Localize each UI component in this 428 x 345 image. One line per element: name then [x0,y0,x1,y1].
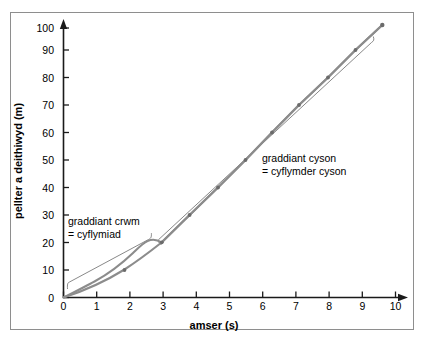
x-tick-label-8: 8 [319,301,339,312]
x-axis-ticks [64,292,396,298]
y-tick-label-90: 90 [18,45,54,56]
y-axis-ticks [64,28,70,298]
data-point [326,76,330,80]
y-tick-label-100: 100 [18,23,54,34]
annotation-constant-line1: graddiant cyson [262,152,336,164]
bracket-curved-gradient [67,233,151,289]
y-axis-title: pellter a deithiwyd (m) [12,86,24,236]
data-point [188,213,192,217]
chart-plot-area [0,0,428,345]
y-tick-label-20: 20 [18,238,54,249]
annotation-curved-line2: = cyflymiad [68,228,140,241]
x-tick-label-4: 4 [186,301,206,312]
data-point [380,23,384,27]
x-tick-label-3: 3 [153,301,173,312]
data-point [244,158,248,162]
x-tick-label-2: 2 [120,301,140,312]
x-tick-label-7: 7 [286,301,306,312]
x-tick-label-6: 6 [253,301,273,312]
x-tick-label-9: 9 [352,301,372,312]
data-point [216,186,220,190]
y-tick-label-10: 10 [18,265,54,276]
x-tick-label-1: 1 [87,301,107,312]
annotation-curved-line1: graddiant crwm [68,215,140,227]
data-point [123,268,127,272]
y-tick-label-0: 0 [18,293,54,304]
x-axis-title: amser (s) [0,319,428,331]
x-tick-label-5: 5 [220,301,240,312]
annotation-constant-gradient: graddiant cyson = cyflymder cyson [262,152,346,178]
x-axis [64,292,409,302]
data-point [160,240,164,244]
data-point [297,103,301,107]
data-point [270,131,274,135]
x-tick-label-10: 10 [386,301,406,312]
x-tick-label-0: 0 [54,301,74,312]
y-axis [60,19,69,298]
annotation-constant-line2: = cyflymder cyson [262,165,346,178]
figure-container: 100 90 80 70 60 50 40 30 20 10 0 0 1 2 3… [0,0,428,345]
y-tick-label-80: 80 [18,73,54,84]
annotation-curved-gradient: graddiant crwm = cyflymiad [68,215,140,241]
data-point [354,48,358,52]
